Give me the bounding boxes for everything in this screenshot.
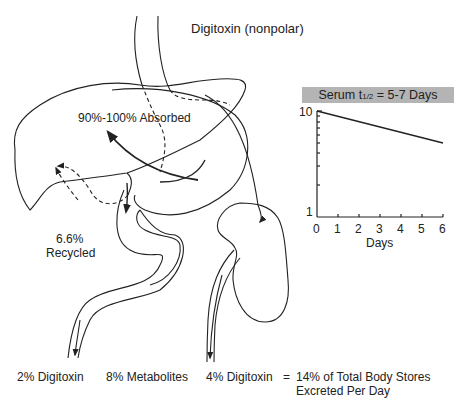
footer-metabolites: 8% Metabolites — [106, 370, 188, 384]
footer-total-line1: 14% of Total Body Stores — [296, 370, 431, 384]
chart-title: Serum t1/2 = 5-7 Days — [302, 87, 454, 103]
x-tick-2: 2 — [355, 223, 362, 235]
esophagus-right-wall — [158, 16, 170, 90]
intestine-outer — [68, 190, 163, 358]
y-tick-10: 10 — [299, 106, 312, 118]
x-tick-5: 5 — [418, 223, 425, 235]
circulation-arc — [160, 160, 205, 182]
footer-equals: = — [283, 370, 290, 384]
stomach-outline — [112, 89, 248, 215]
kidney-outline — [217, 203, 288, 322]
anatomy-diagram — [0, 0, 457, 398]
serum-decay-line — [317, 111, 443, 143]
x-tick-1: 1 — [334, 223, 341, 235]
footer-digitoxin-4: 4% Digitoxin — [206, 370, 273, 384]
half-life-chart — [317, 111, 443, 217]
footer-digitoxin-2: 2% Digitoxin — [17, 370, 84, 384]
recycle-up-arrow — [56, 168, 78, 200]
diagram-title: Digitoxin (nonpolar) — [191, 22, 304, 36]
x-tick-4: 4 — [397, 223, 404, 235]
recycled-arrow — [58, 166, 128, 204]
esophagus-left-wall — [135, 16, 142, 85]
chart-title-subscript: 1/2 — [362, 92, 373, 101]
absorbed-label: 90%-100% Absorbed — [78, 111, 191, 125]
footer-total-line2: Excreted Per Day — [296, 384, 390, 398]
x-axis-label: Days — [366, 237, 393, 249]
chart-title-suffix: = 5-7 Days — [373, 88, 437, 102]
x-tick-3: 3 — [376, 223, 383, 235]
x-tick-6: 6 — [439, 223, 446, 235]
recycled-percent-label: 6.6% — [56, 232, 83, 246]
intestine-wall-2 — [137, 210, 181, 285]
absorbed-arrow — [108, 132, 198, 180]
chart-title-prefix: Serum t — [318, 88, 362, 102]
intestine-inner — [78, 210, 183, 358]
recycled-label: Recycled — [46, 246, 95, 260]
y-tick-1: 1 — [306, 206, 313, 218]
x-tick-0: 0 — [313, 223, 320, 235]
